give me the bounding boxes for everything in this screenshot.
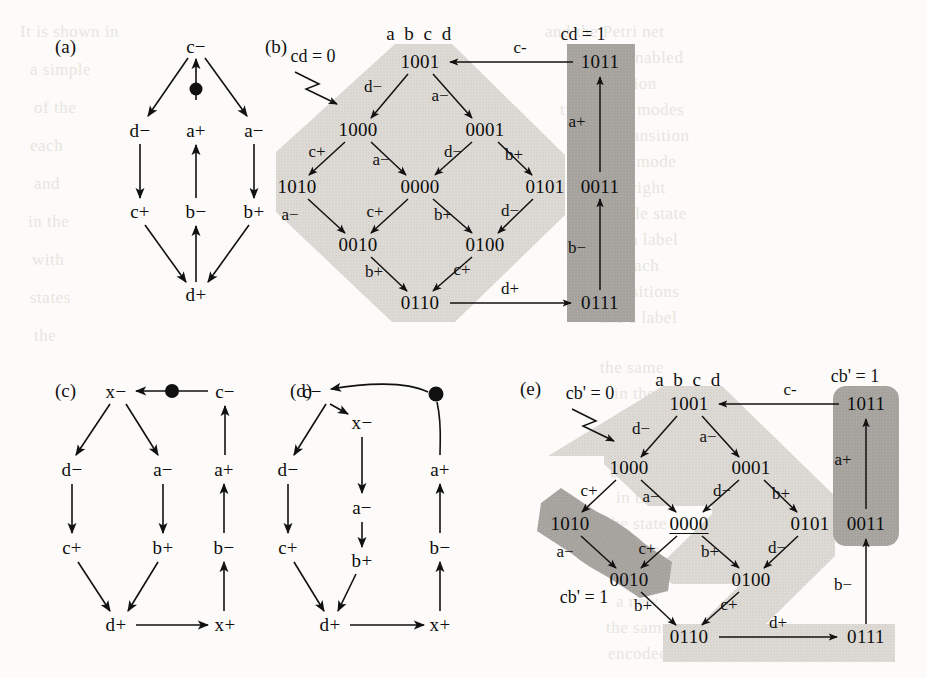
panel-b-caption-cd0: cd = 0 xyxy=(290,46,335,67)
panel-e-node-1000: 1000 xyxy=(609,457,648,479)
panel-c-token xyxy=(165,384,179,398)
panel-e-node-1011: 1011 xyxy=(847,393,886,415)
panel-e-node-0000: 0000 xyxy=(669,513,708,535)
panel-a-token xyxy=(190,83,203,96)
panel-a-node-d-: d− xyxy=(130,120,151,142)
panel-d-node-x+: x+ xyxy=(430,614,451,636)
panel-c-node-b+: b+ xyxy=(153,537,174,559)
panel-b-node-0010: 0010 xyxy=(338,234,377,256)
panel-e-node-1010: 1010 xyxy=(550,513,589,535)
panel-d-node-c+: c+ xyxy=(278,537,298,559)
panel-b-caption-cd1: cd = 1 xyxy=(560,24,605,45)
panel-a-node-c+: c+ xyxy=(130,201,150,223)
panel-b-edge-label-3: a− xyxy=(372,150,389,170)
tokens-layer xyxy=(0,0,927,678)
panel-b-edge-label-1: a− xyxy=(431,86,448,106)
panel-e-edge-label-3: a− xyxy=(642,487,659,507)
panel-b-node-0011: 0011 xyxy=(581,176,620,198)
panel-c-node-x+: x+ xyxy=(215,614,236,636)
panel-b-edge-label-0: d− xyxy=(364,77,382,97)
panel-b-edge-label-15: b− xyxy=(568,238,586,258)
panel-e-node-0010: 0010 xyxy=(609,569,648,591)
panel-b-node-1001: 1001 xyxy=(400,51,439,73)
panel-c-node-c-: c− xyxy=(215,381,235,403)
panel-label-b: (b) xyxy=(265,36,287,58)
panel-e-caption-cb1-left: cb' = 1 xyxy=(560,587,608,608)
panel-b-edge-label-7: c+ xyxy=(366,202,383,222)
panel-d-node-d-: d− xyxy=(278,459,299,481)
panel-e-edge-label-1: a− xyxy=(699,427,716,447)
panel-label-e: (e) xyxy=(520,378,541,400)
panel-d-node-x-: x− xyxy=(352,412,373,434)
panel-a-node-b+: b+ xyxy=(244,201,265,223)
panel-d-node-a+: a+ xyxy=(430,459,450,481)
panel-b-state-header: a b c d xyxy=(386,23,454,45)
panel-d-node-b+: b+ xyxy=(352,550,373,572)
panel-b-edge-label-8: b+ xyxy=(434,205,452,225)
panel-e-edge-label-14: a+ xyxy=(834,450,851,470)
panel-b-edge-label-9: d− xyxy=(501,201,519,221)
panel-b-edge-label-12: c- xyxy=(513,38,526,58)
panel-e-node-0101: 0101 xyxy=(790,513,829,535)
panel-c-node-d-: d− xyxy=(62,459,83,481)
panel-b-edge-label-10: b+ xyxy=(365,262,383,282)
panel-b-edge-label-4: d− xyxy=(444,142,462,162)
panel-e-node-0100: 0100 xyxy=(731,569,770,591)
panel-b-node-0110: 0110 xyxy=(401,292,440,314)
panel-e-edge-label-2: c+ xyxy=(580,481,597,501)
panel-e-node-0111: 0111 xyxy=(847,626,885,648)
panel-e-edge-label-8: b+ xyxy=(701,542,719,562)
panel-d-node-a-: a− xyxy=(352,497,372,519)
panel-a-node-a+: a+ xyxy=(186,120,206,142)
panel-e-edge-label-0: d− xyxy=(632,419,650,439)
panel-e-node-1001: 1001 xyxy=(669,393,708,415)
panel-c-node-c+: c+ xyxy=(62,537,82,559)
panel-e-edge-label-11: c+ xyxy=(720,595,737,615)
panel-b-node-0000: 0000 xyxy=(400,176,439,198)
panel-e-edge-label-6: a− xyxy=(556,542,573,562)
panel-d-node-b-: b− xyxy=(430,537,451,559)
panel-b-node-1000: 1000 xyxy=(338,119,377,141)
panel-e-edge-label-9: d− xyxy=(768,538,786,558)
panel-e-node-0011: 0011 xyxy=(847,513,886,535)
panel-b-node-0111: 0111 xyxy=(581,292,619,314)
panel-e-caption-cb0: cb' = 0 xyxy=(566,383,614,404)
panel-b-edge-label-2: c+ xyxy=(308,142,325,162)
figure-root: and the Petri netthe enabledconditiontwo… xyxy=(0,0,927,678)
panel-e-edge-label-4: d− xyxy=(713,481,731,501)
panel-b-edge-label-6: a− xyxy=(281,205,298,225)
panel-c-node-b-: b− xyxy=(214,537,235,559)
panel-e-edge-label-5: b+ xyxy=(772,484,790,504)
panel-b-node-0101: 0101 xyxy=(525,176,564,198)
panel-e-edge-label-7: c+ xyxy=(638,539,655,559)
panel-e-edge-label-12: c- xyxy=(783,380,796,400)
panel-a-node-b-: b− xyxy=(186,201,207,223)
panel-d-node-d+: d+ xyxy=(320,614,341,636)
panel-b-node-0001: 0001 xyxy=(465,119,504,141)
panel-a-node-c-: c− xyxy=(186,36,206,58)
panel-c-node-x-: x− xyxy=(106,381,127,403)
panel-b-node-1010: 1010 xyxy=(277,176,316,198)
panel-b-edge-label-5: b+ xyxy=(505,145,523,165)
panel-a-node-d+: d+ xyxy=(186,284,207,306)
panel-d-token xyxy=(429,387,444,402)
panel-e-node-0001: 0001 xyxy=(731,457,770,479)
panel-e-node-0110: 0110 xyxy=(670,626,709,648)
panel-e-edge-label-13: d+ xyxy=(769,613,787,633)
panel-b-edge-label-11: c+ xyxy=(453,260,470,280)
panel-b-edge-label-14: a+ xyxy=(568,112,585,132)
panel-e-edge-label-10: b+ xyxy=(634,596,652,616)
panel-c-node-a+: a+ xyxy=(214,459,234,481)
panel-b-node-0100: 0100 xyxy=(465,234,504,256)
panel-b-node-1011: 1011 xyxy=(581,51,620,73)
panel-c-node-d+: d+ xyxy=(106,614,127,636)
panel-c-node-a-: a− xyxy=(153,459,173,481)
panel-label-a: (a) xyxy=(55,36,76,58)
panel-label-c: (c) xyxy=(55,380,76,402)
panel-d-node-c-: c− xyxy=(302,381,322,403)
panel-e-caption-cb1-right: cb' = 1 xyxy=(831,366,879,387)
panel-a-node-a-: a− xyxy=(244,120,264,142)
panel-e-edge-label-15: b− xyxy=(834,575,852,595)
panel-b-edge-label-13: d+ xyxy=(501,279,519,299)
panel-e-state-header: a b c d xyxy=(655,369,723,391)
